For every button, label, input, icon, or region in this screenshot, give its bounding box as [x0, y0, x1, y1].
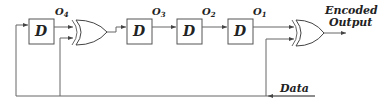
- data-input-label: Data: [279, 82, 309, 95]
- xor-gate-2: [292, 20, 324, 46]
- flipflop-label: D: [132, 23, 146, 39]
- flipflop-o3: D: [127, 19, 152, 44]
- encoded-output-label-line2: Output: [329, 16, 372, 29]
- flipflop-label: D: [182, 23, 196, 39]
- output-label-o4: O4: [55, 6, 69, 19]
- output-label-o1: O1: [253, 6, 267, 19]
- output-label-o2: O2: [202, 6, 216, 19]
- xor-gate-1: [72, 20, 107, 45]
- circuit-diagram: D O4 D O3 D O2 D O1 Encoded Output Data: [0, 0, 380, 105]
- flipflop-o4: D: [29, 19, 54, 44]
- flipflop-label: D: [233, 23, 247, 39]
- flipflop-o2: D: [177, 19, 202, 44]
- feedback-bus: [16, 25, 315, 96]
- flipflop-o1: D: [228, 19, 253, 44]
- output-label-o3: O3: [152, 6, 166, 19]
- flipflop-label: D: [34, 23, 48, 39]
